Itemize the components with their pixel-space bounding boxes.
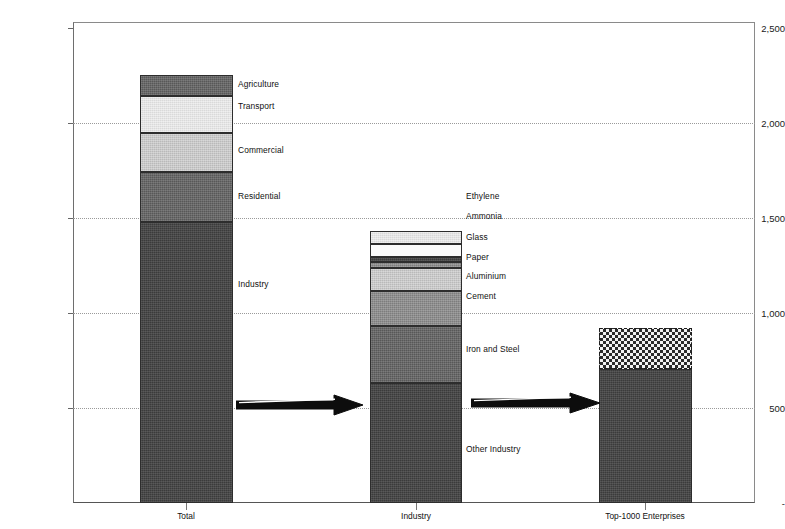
label-paper: Paper [466,252,489,262]
segment-aluminium[interactable] [370,268,462,291]
label-aluminium: Aluminium [466,271,506,281]
segment-other-industry[interactable] [370,383,462,503]
bar-top1000-enterprises[interactable] [599,328,692,503]
segment-commercial[interactable] [140,133,233,172]
label-glass: Glass [466,232,488,242]
segment-industry[interactable] [140,222,233,503]
segment-paper[interactable] [370,244,462,257]
segment-top1000-checkered[interactable] [599,328,692,369]
arrow-industry-to-top1000 [471,392,601,414]
label-iron-and-steel: Iron and Steel [466,344,520,354]
segment-glass[interactable] [370,231,462,244]
segment-residential[interactable] [140,172,233,222]
label-transport: Transport [238,101,274,111]
arrow-total-to-industry [236,394,364,416]
x-label-total: Total [177,511,195,521]
label-agriculture: Agriculture [238,79,279,89]
segment-cement[interactable] [370,291,462,326]
label-commercial: Commercial [238,145,284,155]
bar-total[interactable] [140,75,233,503]
segment-iron-and-steel[interactable] [370,326,462,383]
segment-transport[interactable] [140,96,233,133]
label-industry: Industry [238,279,269,289]
x-tick-top1000 [645,503,646,510]
x-label-top1000: Top-1000 Enterprises [605,511,685,521]
x-tick-industry [416,503,417,510]
label-ammonia: Ammonia [466,211,502,221]
label-cement: Cement [466,291,496,301]
x-tick-total [186,503,187,510]
bar-industry[interactable] [370,231,462,503]
label-ethylene: Ethylene [466,191,499,201]
chart-container: Primary Energy Consumption 2005 (million… [0,0,785,529]
segment-agriculture[interactable] [140,75,233,96]
label-other-industry: Other Industry [466,444,520,454]
x-label-industry: Industry [401,511,431,521]
label-residential: Residential [238,191,281,201]
segment-top1000-base[interactable] [599,369,692,503]
